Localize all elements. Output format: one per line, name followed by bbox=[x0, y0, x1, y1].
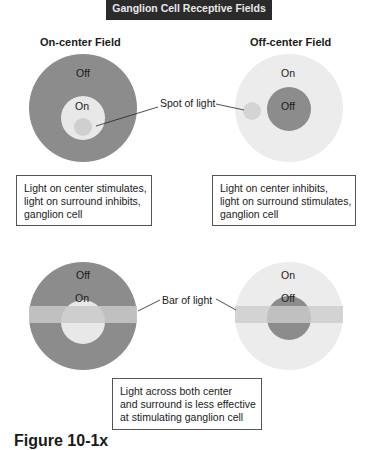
bar-pointer-right bbox=[216, 299, 236, 310]
on-center-caption: Light on center stimulates, light on sur… bbox=[16, 175, 152, 226]
bar-of-light-label: Bar of light bbox=[162, 294, 212, 306]
bottom-left-center-label: On bbox=[75, 292, 89, 304]
bottom-right-center-label: Off bbox=[281, 292, 295, 304]
bottom-right-surround-label: On bbox=[281, 269, 295, 281]
bar-pointer-left bbox=[138, 300, 160, 311]
bar-caption: Light across both center and surround is… bbox=[112, 378, 262, 430]
figure-label: Figure 10-1x bbox=[14, 432, 108, 450]
spot-of-light-label: Spot of light bbox=[160, 97, 215, 109]
top-left-surround-label: Off bbox=[76, 67, 90, 79]
top-left-center-label: On bbox=[75, 100, 89, 112]
off-center-caption: Light on center inhibits, light on surro… bbox=[212, 175, 356, 226]
bottom-left-surround-label: Off bbox=[76, 269, 90, 281]
top-right-surround-label: On bbox=[281, 67, 295, 79]
top-right-center-label: Off bbox=[281, 100, 295, 112]
